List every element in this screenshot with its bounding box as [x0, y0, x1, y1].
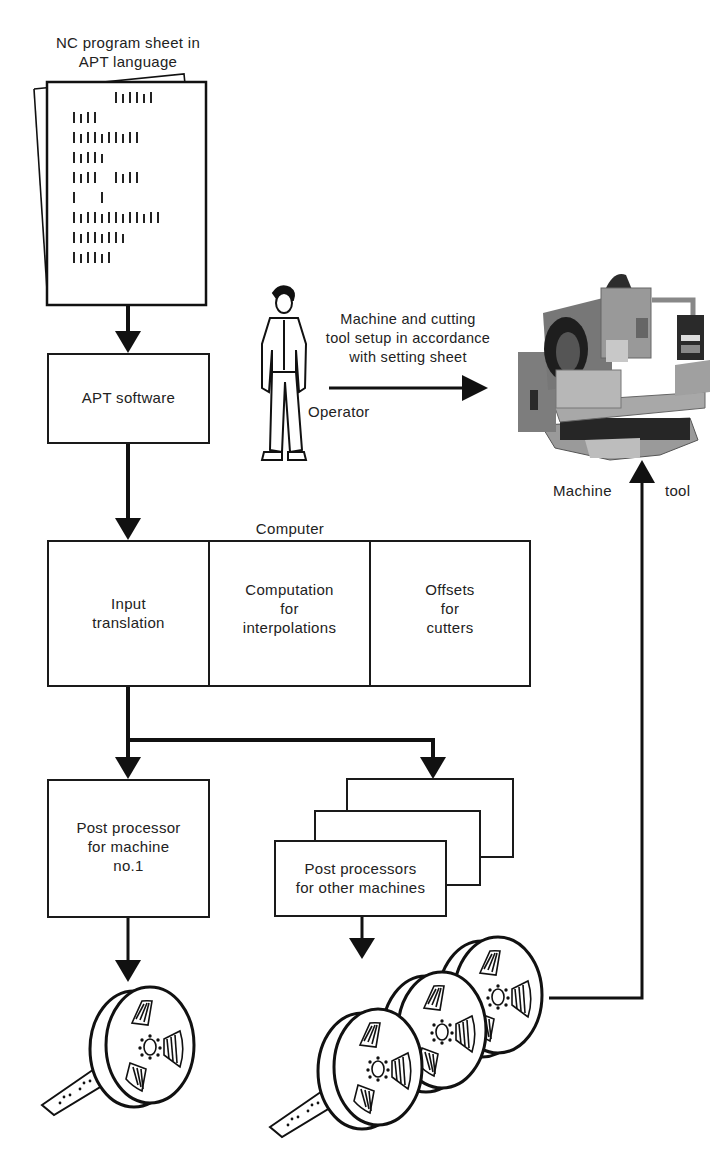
post-processors-other-box: Post processors for other machines — [274, 840, 447, 917]
arrow-pp-others-to-reels — [349, 915, 375, 959]
arrow-apt-to-computer — [115, 443, 141, 540]
computer-box: Input translation Computation for interp… — [47, 540, 531, 687]
apt-software-label: APT software — [49, 388, 208, 407]
computer-title: Computer — [250, 519, 330, 538]
offsets-label: Offsets for cutters — [371, 580, 529, 637]
arrow-pp1-to-reel — [115, 917, 141, 982]
computer-section-interpolations: Computation for interpolations — [210, 542, 371, 685]
apt-software-box: APT software — [47, 353, 210, 444]
tape-reel-icon — [42, 987, 194, 1115]
post-processor-1-box: Post processor for machine no.1 — [47, 779, 210, 918]
tool-label: tool — [665, 481, 690, 500]
tape-reels-stack-icon — [270, 937, 542, 1137]
program-sheet-icon — [34, 74, 206, 305]
interpolations-label: Computation for interpolations — [210, 580, 369, 637]
post-processors-other-label: Post processors for other machines — [276, 859, 445, 897]
machine-tool-icon — [518, 274, 710, 460]
arrow-sheet-to-apt — [115, 305, 141, 353]
arrow-tapes-to-machine — [549, 460, 655, 998]
machine-label: Machine — [553, 481, 612, 500]
computer-section-input-translation: Input translation — [49, 542, 210, 685]
operator-person-icon — [262, 286, 306, 460]
post-processor-1-label: Post processor for machine no.1 — [49, 818, 208, 875]
setup-instruction: Machine and cutting tool setup in accord… — [308, 310, 508, 367]
input-translation-label: Input translation — [49, 594, 208, 632]
program-sheet-title: NC program sheet in APT language — [40, 33, 216, 71]
operator-label: Operator — [308, 402, 370, 421]
arrows-computer-to-postprocessors — [115, 686, 446, 779]
arrow-setup-to-machine — [329, 375, 488, 401]
computer-section-offsets: Offsets for cutters — [371, 542, 529, 685]
